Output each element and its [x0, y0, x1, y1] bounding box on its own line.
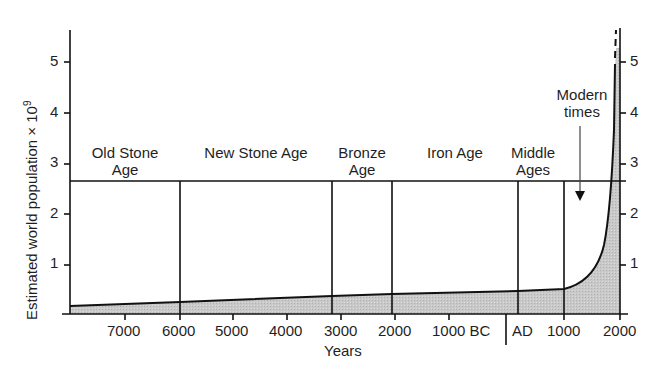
y-tick-label-right: 3	[630, 154, 638, 170]
annotation-line: times	[550, 103, 614, 120]
period-label-line: Iron Age	[410, 144, 500, 161]
x-tick-label: 2000	[603, 323, 636, 339]
y-ticks-right	[620, 62, 626, 265]
y-axis-title-exponent: 9	[22, 101, 33, 107]
period-label-line: Ages	[500, 161, 566, 178]
x-tick-label: 7000	[107, 323, 140, 339]
y-axis-title: Estimated world population × 109	[22, 101, 40, 320]
period-label-line: Old Stone	[84, 144, 166, 161]
y-tick-label-right: 1	[630, 255, 638, 271]
curve-extrapolation-dash	[615, 30, 616, 58]
y-tick-label-left: 5	[50, 53, 58, 69]
modern-times-annotation: Modern times	[550, 86, 614, 120]
period-label-iron-age: Iron Age	[410, 144, 500, 161]
x-tick-label: AD	[512, 323, 533, 339]
annotation-line: Modern	[550, 86, 614, 103]
y-tick-label-left: 3	[50, 154, 58, 170]
x-tick-label: 1000	[547, 323, 580, 339]
y-tick-label-left: 4	[50, 104, 58, 120]
x-tick-label: 4000	[269, 323, 302, 339]
y-tick-label-right: 4	[630, 104, 638, 120]
y-tick-label-right: 2	[630, 205, 638, 221]
x-tick-label: 3000	[324, 323, 357, 339]
x-axis-title: Years	[324, 343, 362, 359]
x-tick-label: 2000	[378, 323, 411, 339]
y-tick-label-right: 5	[630, 53, 638, 69]
period-label-new-stone-age: New Stone Age	[188, 144, 324, 161]
period-label-line: Age	[334, 161, 390, 178]
x-tick-label: 6000	[162, 323, 195, 339]
x-tick-label: 5000	[215, 323, 248, 339]
period-label-bronze-age: Bronze Age	[334, 144, 390, 178]
period-label-line: Middle	[500, 144, 566, 161]
modern-times-arrow-head	[575, 191, 585, 201]
population-curve	[70, 64, 615, 306]
period-label-line: New Stone Age	[188, 144, 324, 161]
period-label-middle-ages: Middle Ages	[500, 144, 566, 178]
x-ticks	[125, 314, 620, 320]
y-tick-label-left: 2	[50, 205, 58, 221]
x-tick-label: 1000 BC	[432, 323, 490, 339]
population-chart	[0, 0, 663, 375]
period-label-old-stone-age: Old Stone Age	[84, 144, 166, 178]
y-tick-label-left: 1	[50, 255, 58, 271]
y-ticks-left	[64, 62, 70, 265]
y-axis-title-text: Estimated world population × 10	[23, 106, 40, 320]
period-label-line: Bronze	[334, 144, 390, 161]
period-label-line: Age	[84, 161, 166, 178]
